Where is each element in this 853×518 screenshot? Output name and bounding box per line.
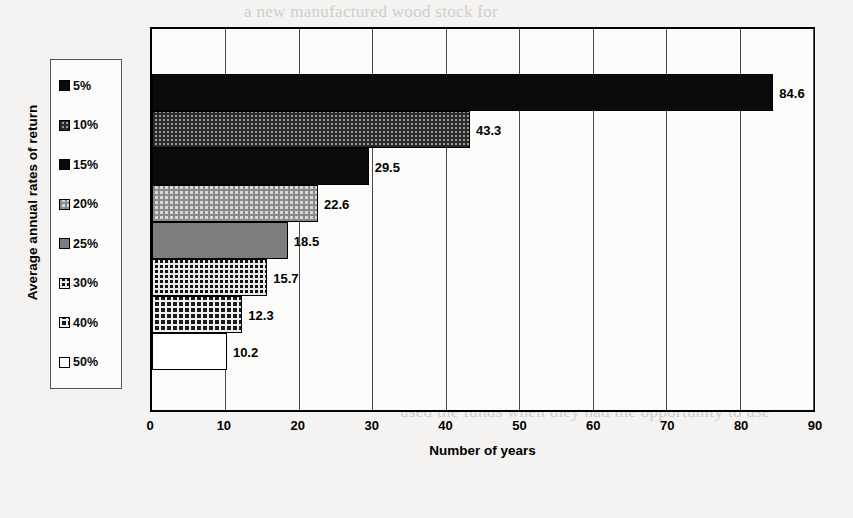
- plot-area: 84.643.329.522.618.515.712.310.2: [150, 27, 815, 412]
- legend-item: 25%: [59, 237, 121, 251]
- x-tick-label: 40: [438, 418, 452, 433]
- bar: [152, 259, 267, 296]
- y-axis-title: Average annual rates of return: [25, 53, 40, 353]
- bars-group: 84.643.329.522.618.515.712.310.2: [152, 74, 813, 366]
- x-tick-label: 60: [586, 418, 600, 433]
- bar-value-label: 12.3: [242, 307, 273, 322]
- legend-item: 40%: [59, 316, 121, 330]
- legend-swatch-icon: [59, 238, 70, 249]
- legend-item-label: 10%: [73, 118, 98, 132]
- x-tick-label: 10: [217, 418, 231, 433]
- legend-item: 20%: [59, 197, 121, 211]
- bar-chart-figure: Average annual rates of return 5%10%15%2…: [0, 0, 853, 518]
- bar-row: 22.6: [152, 185, 813, 222]
- legend-item-label: 40%: [73, 316, 98, 330]
- legend-item-label: 50%: [73, 355, 98, 369]
- bar: [152, 185, 318, 222]
- x-axis-title: Number of years: [150, 443, 815, 458]
- x-tick-label: 50: [512, 418, 526, 433]
- legend-item-label: 25%: [73, 237, 98, 251]
- bar-value-label: 84.6: [773, 85, 804, 100]
- legend-item: 15%: [59, 158, 121, 172]
- bar-row: 29.5: [152, 148, 813, 185]
- bar-value-label: 22.6: [318, 196, 349, 211]
- bar: [152, 222, 288, 259]
- bar: [152, 333, 227, 370]
- x-tick-label: 30: [364, 418, 378, 433]
- bar-value-label: 18.5: [288, 233, 319, 248]
- legend-item-label: 15%: [73, 158, 98, 172]
- bar: [152, 296, 242, 333]
- bar-value-label: 43.3: [470, 122, 501, 137]
- chart-legend: 5%10%15%20%25%30%40%50%: [50, 59, 122, 389]
- legend-swatch-icon: [59, 120, 70, 131]
- bar-value-label: 10.2: [227, 344, 258, 359]
- legend-swatch-icon: [59, 199, 70, 210]
- bar-row: 12.3: [152, 296, 813, 333]
- bar-row: 15.7: [152, 259, 813, 296]
- legend-item: 5%: [59, 79, 121, 93]
- bar-value-label: 29.5: [369, 159, 400, 174]
- gridline: [813, 29, 814, 410]
- bar: [152, 74, 773, 111]
- bar-row: 43.3: [152, 111, 813, 148]
- bar-row: 10.2: [152, 333, 813, 370]
- bar-row: 18.5: [152, 222, 813, 259]
- bar-value-label: 15.7: [267, 270, 298, 285]
- bar: [152, 111, 470, 148]
- bar: [152, 148, 369, 185]
- x-axis-tick-labels: 0102030405060708090: [150, 412, 815, 438]
- legend-swatch-icon: [59, 357, 70, 368]
- legend-item-label: 5%: [73, 79, 91, 93]
- legend-swatch-icon: [59, 278, 70, 289]
- x-tick-label: 80: [734, 418, 748, 433]
- legend-swatch-icon: [59, 317, 70, 328]
- legend-item-label: 20%: [73, 197, 98, 211]
- legend-item: 50%: [59, 355, 121, 369]
- legend-item-label: 30%: [73, 276, 98, 290]
- x-tick-label: 0: [146, 418, 153, 433]
- bar-row: 84.6: [152, 74, 813, 111]
- legend-item: 10%: [59, 118, 121, 132]
- legend-item: 30%: [59, 276, 121, 290]
- legend-swatch-icon: [59, 159, 70, 170]
- x-tick-label: 90: [808, 418, 822, 433]
- legend-swatch-icon: [59, 80, 70, 91]
- x-tick-label: 20: [291, 418, 305, 433]
- x-tick-label: 70: [660, 418, 674, 433]
